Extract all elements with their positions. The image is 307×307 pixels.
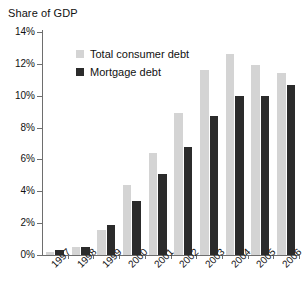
bar-total-consumer-debt-2002 [174, 113, 183, 255]
y-axis-label: 12% [1, 58, 35, 69]
chart-legend: Total consumer debtMortgage debt [76, 46, 189, 82]
legend-label: Total consumer debt [90, 48, 189, 60]
bar-mortgage-debt-2004 [235, 96, 244, 255]
legend-swatch-icon [76, 68, 84, 76]
bar-chart: Share of GDP 0%2%4%6%8%10%12%14% 1997199… [0, 0, 307, 307]
legend-item[interactable]: Total consumer debt [76, 46, 189, 62]
legend-item[interactable]: Mortgage debt [76, 64, 189, 80]
bar-total-consumer-debt-2005 [251, 65, 260, 255]
y-axis-label: 4% [1, 185, 35, 196]
y-axis-label: 6% [1, 153, 35, 164]
bar-total-consumer-debt-2001 [149, 153, 158, 255]
chart-title: Share of GDP [8, 7, 78, 19]
y-axis-tick [37, 255, 42, 256]
bar-mortgage-debt-1997 [55, 250, 64, 255]
bar-total-consumer-debt-2006 [277, 73, 286, 255]
bar-mortgage-debt-2006 [287, 85, 296, 255]
y-axis-label: 2% [1, 217, 35, 228]
legend-swatch-icon [76, 50, 84, 58]
bar-total-consumer-debt-1999 [97, 230, 106, 255]
bar-mortgage-debt-2005 [261, 96, 270, 255]
bar-total-consumer-debt-2000 [123, 185, 132, 255]
y-axis-label: 10% [1, 90, 35, 101]
y-axis-label: 0% [1, 249, 35, 260]
bar-mortgage-debt-2003 [210, 116, 219, 255]
bar-mortgage-debt-1999 [107, 225, 116, 255]
bar-mortgage-debt-1998 [81, 247, 90, 255]
bar-total-consumer-debt-1997 [46, 252, 55, 255]
bar-mortgage-debt-2002 [184, 147, 193, 255]
bar-mortgage-debt-2000 [132, 201, 141, 255]
bar-total-consumer-debt-1998 [72, 247, 81, 255]
y-axis-label: 14% [1, 26, 35, 37]
y-axis-label: 8% [1, 122, 35, 133]
bar-total-consumer-debt-2003 [200, 70, 209, 255]
bar-total-consumer-debt-2004 [226, 54, 235, 255]
legend-label: Mortgage debt [90, 66, 161, 78]
bar-mortgage-debt-2001 [158, 174, 167, 255]
